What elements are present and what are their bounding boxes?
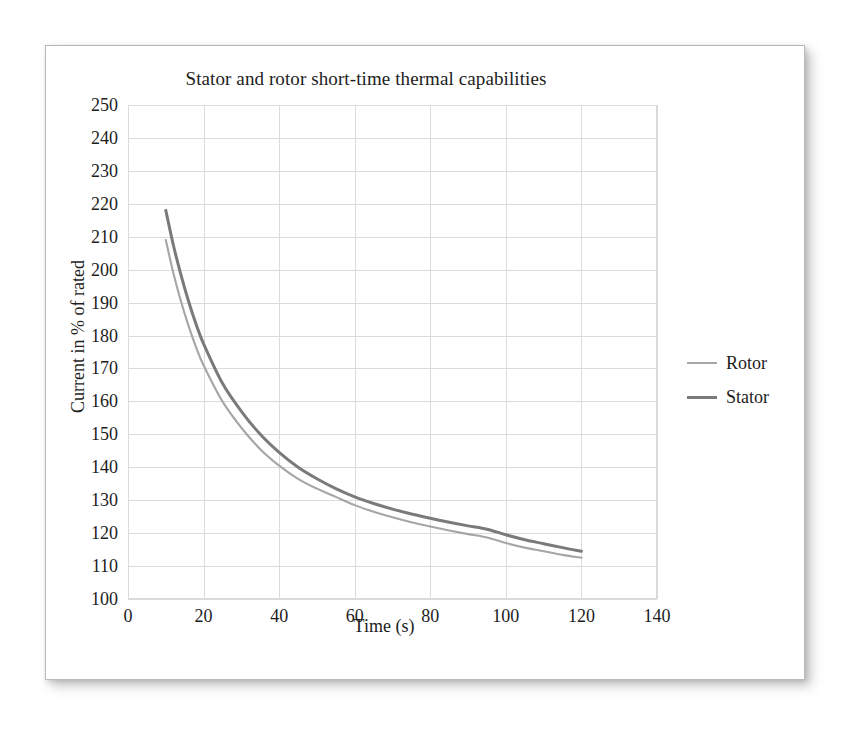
y-tick-label: 160 [91, 391, 118, 412]
x-axis-title: Time (s) [128, 616, 640, 637]
gridline-vertical [657, 105, 658, 599]
y-axis-title: Current in % of rated [68, 197, 89, 477]
y-tick-label: 220 [91, 193, 118, 214]
y-tick-label: 170 [91, 358, 118, 379]
legend-swatch-rotor-icon [687, 362, 717, 364]
chart-title: Stator and rotor short-time thermal capa… [46, 68, 686, 90]
legend-entry-stator[interactable]: Stator [687, 380, 807, 414]
y-tick-label: 200 [91, 259, 118, 280]
chart-legend: RotorStator [687, 346, 807, 414]
y-tick-label: 190 [91, 292, 118, 313]
plot-area: 1001101201301401501601701801902002102202… [128, 105, 657, 599]
gridline-horizontal [128, 599, 657, 600]
y-tick-label: 150 [91, 424, 118, 445]
y-tick-label: 240 [91, 127, 118, 148]
legend-label: Stator [726, 387, 769, 408]
y-tick-label: 250 [91, 95, 118, 116]
series-line-rotor [166, 240, 582, 558]
legend-label: Rotor [726, 353, 767, 374]
y-tick-label: 100 [91, 589, 118, 610]
x-tick-label: 140 [644, 606, 671, 627]
y-tick-label: 110 [92, 556, 118, 577]
series-line-stator [166, 210, 582, 551]
y-tick-label: 180 [91, 325, 118, 346]
y-tick-label: 140 [91, 457, 118, 478]
series-plot [128, 105, 657, 599]
y-tick-label: 120 [91, 523, 118, 544]
y-tick-label: 130 [91, 490, 118, 511]
legend-entry-rotor[interactable]: Rotor [687, 346, 807, 380]
legend-swatch-stator-icon [687, 396, 717, 399]
y-tick-label: 230 [91, 160, 118, 181]
figure-card: Stator and rotor short-time thermal capa… [45, 45, 805, 680]
y-tick-label: 210 [91, 226, 118, 247]
